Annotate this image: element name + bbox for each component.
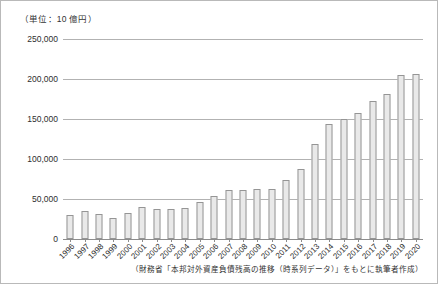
y-axis-tick-label: 200,000	[27, 74, 58, 84]
y-axis-tick-label: 100,000	[27, 154, 58, 164]
x-tick-slot: 2006	[207, 39, 221, 239]
x-tick-slot: 2014	[322, 39, 336, 239]
x-tick-slot: 2007	[221, 39, 235, 239]
source-note: （財務省「本邦対外資産負債残高の推移（時系列データ）」をもとに執筆者作成）	[131, 263, 423, 274]
x-tick-slot: 2010	[265, 39, 279, 239]
x-tick-slot: 2004	[178, 39, 192, 239]
x-tick-slot: 2015	[337, 39, 351, 239]
x-tick-slot: 2001	[135, 39, 149, 239]
x-tick-slot: 2008	[236, 39, 250, 239]
x-tick-slot: 1996	[63, 39, 77, 239]
y-axis-tick-label: 0	[53, 234, 58, 244]
x-tick-slot: 2017	[365, 39, 379, 239]
plot-area: 250,000200,000150,000100,00050,0000 1996…	[63, 39, 423, 239]
x-tick-slot: 1999	[106, 39, 120, 239]
x-tick-slot: 2005	[193, 39, 207, 239]
x-tick-slot: 2000	[121, 39, 135, 239]
x-tick-slot: 2011	[279, 39, 293, 239]
x-tick-slot: 2002	[149, 39, 163, 239]
y-axis-tick-label: 50,000	[32, 194, 58, 204]
x-tick-slot: 2018	[380, 39, 394, 239]
x-tick-slot: 2009	[250, 39, 264, 239]
x-tick-slot: 2020	[409, 39, 423, 239]
x-tick-slot: 2016	[351, 39, 365, 239]
x-tick-slot: 2013	[308, 39, 322, 239]
x-tick-slot: 1997	[77, 39, 91, 239]
chart-figure: （単位：10 億円） 250,000200,000150,000100,0005…	[0, 0, 438, 284]
x-tick-slot: 2003	[164, 39, 178, 239]
y-axis-tick-label: 250,000	[27, 34, 58, 44]
unit-label: （単位：10 億円）	[20, 12, 97, 24]
x-axis-tick-label: 2020	[403, 242, 422, 261]
x-tick-slot: 2019	[394, 39, 408, 239]
y-axis-tick-label: 150,000	[27, 114, 58, 124]
x-tick-slot: 1998	[92, 39, 106, 239]
x-tick-slot: 2012	[293, 39, 307, 239]
